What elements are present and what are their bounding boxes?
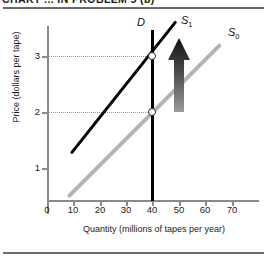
curve-label-s1-sub: 1 (188, 20, 192, 29)
top-rule (3, 7, 264, 9)
supply-curve-s0 (67, 43, 223, 199)
guide-price-3 (48, 56, 154, 57)
supply-curve-s1 (70, 20, 178, 154)
x-tick-label-0: 0 (39, 204, 55, 215)
x-axis-title: Quantity (millions of tapes per year) (47, 224, 261, 234)
x-tick-label-10: 10 (65, 204, 81, 215)
x-tick-label-70: 70 (224, 204, 240, 215)
figure-container: CHART ... IN PROBLEM 5 (b) Price (dollar… (0, 0, 267, 262)
y-axis-title: Price (dollars per tape) (11, 17, 21, 137)
x-tick-label-40: 40 (144, 204, 160, 215)
x-tick-label-60: 60 (197, 204, 213, 215)
y-tick-label-1: 1 (26, 162, 40, 173)
x-tick-label-50: 50 (171, 204, 187, 215)
curve-label-s0-sub: 0 (235, 32, 239, 41)
equilibrium-point-new (148, 52, 156, 60)
figure-header-clip: CHART ... IN PROBLEM 5 (b) (0, 0, 267, 5)
x-tick-label-30: 30 (118, 204, 134, 215)
figure-header-text: CHART ... IN PROBLEM 5 (b) (0, 0, 267, 5)
x-tick-label-20: 20 (92, 204, 108, 215)
curve-label-d: D (137, 16, 145, 28)
y-tick-label-2: 2 (26, 106, 40, 117)
curve-label-d-text: D (137, 16, 145, 28)
y-tick-mark-2 (42, 112, 47, 114)
y-tick-mark-3 (42, 56, 47, 58)
curve-label-s1: S1 (181, 14, 193, 29)
curve-label-s0: S0 (228, 26, 240, 41)
y-axis-line (47, 26, 49, 214)
supply-shift-arrow-icon (168, 38, 190, 112)
plot-area: Price (dollars per tape) Quantity (milli… (0, 12, 267, 248)
y-tick-mark-1 (42, 168, 47, 170)
bottom-rule (3, 252, 264, 254)
equilibrium-point-original (148, 108, 156, 116)
y-tick-label-3: 3 (26, 50, 40, 61)
